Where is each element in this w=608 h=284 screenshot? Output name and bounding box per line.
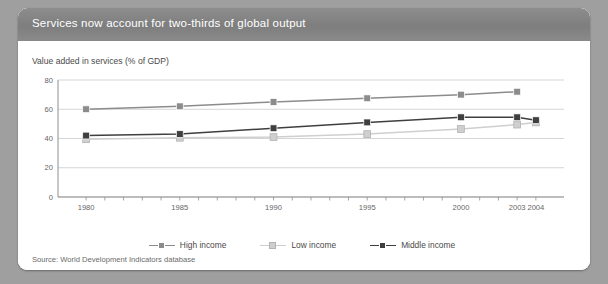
line-chart: 0204060801980198519901995200020032004 xyxy=(32,74,572,219)
chart-plot-area: 0204060801980198519901995200020032004 xyxy=(32,74,572,219)
data-point-marker xyxy=(270,134,277,141)
x-tick-label: 1995 xyxy=(359,203,376,212)
y-tick-label: 60 xyxy=(45,105,53,114)
series-line xyxy=(86,117,536,135)
y-tick-label: 80 xyxy=(45,76,53,85)
data-point-marker xyxy=(514,114,521,121)
legend-label-low-income: Low income xyxy=(291,240,336,250)
data-point-marker xyxy=(83,132,90,139)
data-point-marker xyxy=(270,99,277,106)
legend-swatch-high-income xyxy=(149,241,175,250)
chart-legend: High income Low income Middle income xyxy=(32,237,572,253)
x-tick-label: 1985 xyxy=(171,203,188,212)
x-tick-label: 2004 xyxy=(527,203,544,212)
data-point-marker xyxy=(83,106,90,113)
legend-label-high-income: High income xyxy=(180,240,227,250)
y-tick-label: 20 xyxy=(45,163,53,172)
source-note: Source: World Development Indicators dat… xyxy=(32,255,195,264)
series-line xyxy=(86,122,536,139)
x-tick-label: 2000 xyxy=(452,203,469,212)
y-tick-label: 0 xyxy=(49,193,53,202)
data-point-marker xyxy=(514,121,521,128)
chart-axis-title: Value added in services (% of GDP) xyxy=(32,56,169,66)
data-point-marker xyxy=(458,114,465,121)
data-point-marker xyxy=(176,103,183,110)
data-point-marker xyxy=(514,88,521,95)
data-point-marker xyxy=(458,126,465,133)
figure-title-bar: Services now account for two-thirds of g… xyxy=(18,8,590,41)
legend-item-low-income: Low income xyxy=(260,240,336,250)
legend-item-high-income: High income xyxy=(149,240,227,250)
legend-item-middle-income: Middle income xyxy=(370,240,455,250)
series-line xyxy=(86,92,517,110)
data-point-marker xyxy=(364,119,371,126)
data-point-marker xyxy=(364,95,371,102)
x-tick-label: 1990 xyxy=(265,203,282,212)
x-tick-label: 2003 xyxy=(509,203,526,212)
figure-card: Services now account for two-thirds of g… xyxy=(18,8,590,270)
figure-page: Services now account for two-thirds of g… xyxy=(0,0,608,284)
legend-label-middle-income: Middle income xyxy=(401,240,455,250)
figure-body: Value added in services (% of GDP) 02040… xyxy=(18,41,590,270)
data-point-marker xyxy=(176,131,183,138)
y-tick-label: 40 xyxy=(45,134,53,143)
page-title: Services now account for two-thirds of g… xyxy=(32,17,306,29)
data-point-marker xyxy=(364,131,371,138)
data-point-marker xyxy=(458,91,465,98)
legend-swatch-low-income xyxy=(260,241,286,250)
data-point-marker xyxy=(270,125,277,132)
legend-swatch-middle-income xyxy=(370,241,396,250)
data-point-marker xyxy=(532,117,539,124)
x-tick-label: 1980 xyxy=(78,203,95,212)
